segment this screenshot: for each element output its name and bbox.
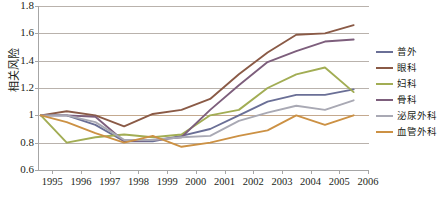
legend-item[interactable]: 泌尿外科: [376, 108, 444, 124]
legend-label: 妇科: [397, 79, 417, 89]
legend-swatch-icon: [376, 51, 393, 53]
y-axis-tick-label: 1.4: [8, 56, 34, 64]
x-axis-tick: [138, 170, 139, 174]
legend-item[interactable]: 骨科: [376, 92, 444, 108]
legend-swatch-icon: [376, 131, 393, 133]
x-axis-tick: [339, 170, 340, 174]
legend-item[interactable]: 眼科: [376, 60, 444, 76]
legend-swatch-icon: [376, 115, 393, 117]
legend-label: 普外: [397, 47, 417, 57]
x-axis-tick: [253, 170, 254, 174]
x-axis-tick: [368, 170, 369, 174]
x-axis-tick-label: 2006: [348, 176, 388, 187]
series-line: [41, 39, 354, 141]
y-axis-tick-label: 1: [8, 110, 34, 118]
x-axis-tick: [167, 170, 168, 174]
legend-label: 泌尿外科: [397, 111, 437, 121]
x-axis-tick: [52, 170, 53, 174]
legend-label: 骨科: [397, 95, 417, 105]
legend-item[interactable]: 普外: [376, 44, 444, 60]
y-axis-tick-labels: 1.81.61.41.210.80.6: [4, 0, 34, 199]
legend-item[interactable]: 血管外科: [376, 124, 444, 140]
chart-legend: 普外眼科妇科骨科泌尿外科血管外科: [376, 44, 444, 140]
legend-label: 血管外科: [397, 127, 437, 137]
y-axis-tick-label: 0.6: [8, 165, 34, 173]
x-axis-tick: [225, 170, 226, 174]
legend-swatch-icon: [376, 83, 393, 85]
y-axis-tick-label: 0.8: [8, 138, 34, 146]
x-axis-tick: [311, 170, 312, 174]
x-axis-tick: [81, 170, 82, 174]
x-axis-tick: [110, 170, 111, 174]
x-axis-tick: [196, 170, 197, 174]
series-line: [41, 25, 354, 126]
y-axis-tick-label: 1.2: [8, 83, 34, 91]
legend-swatch-icon: [376, 99, 393, 101]
y-axis-tick-label: 1.8: [8, 1, 34, 9]
x-axis-line: [38, 170, 368, 171]
chart-container: 相关风险 1.81.61.41.210.80.6 199519961997199…: [0, 0, 444, 199]
legend-label: 眼科: [397, 63, 417, 73]
legend-swatch-icon: [376, 67, 393, 69]
series-line: [41, 100, 354, 140]
legend-item[interactable]: 妇科: [376, 76, 444, 92]
chart-lines: [38, 6, 368, 170]
x-axis-tick: [282, 170, 283, 174]
y-axis-tick-label: 1.6: [8, 28, 34, 36]
series-line: [41, 89, 354, 141]
